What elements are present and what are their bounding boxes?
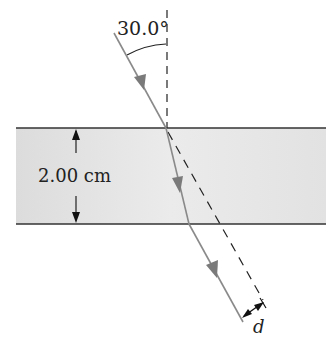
displacement-label: d	[253, 316, 265, 337]
displacement-arrowhead-b	[254, 302, 264, 311]
thickness-label: 2.00 cm	[38, 165, 111, 186]
incident-arrowhead	[134, 74, 146, 90]
diagram-canvas: 30.0° 2.00 cm d	[0, 0, 332, 340]
emergent-arrowhead	[206, 260, 218, 278]
refraction-diagram: 30.0° 2.00 cm d	[0, 0, 332, 340]
displacement-arrowhead-a	[242, 309, 252, 318]
incident-angle-label: 30.0°	[117, 17, 169, 39]
angle-arc	[127, 44, 166, 55]
